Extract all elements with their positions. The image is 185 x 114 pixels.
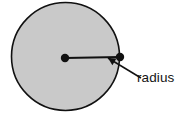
center-point-dot <box>61 54 69 62</box>
radius-line <box>65 57 120 58</box>
diagram-canvas: radius <box>0 0 185 114</box>
circle-radius-diagram: radius <box>0 0 185 114</box>
edge-point-dot <box>116 53 124 61</box>
radius-label: radius <box>137 70 175 85</box>
